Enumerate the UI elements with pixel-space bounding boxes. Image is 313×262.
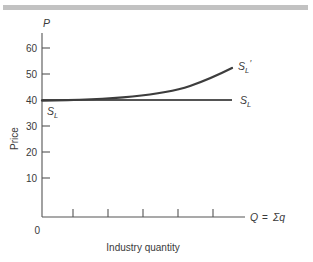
x-axis-symbol-q: Q [250,211,258,223]
curve-label-sl-prime: S L ′ [238,58,252,75]
y-tick-label-10: 10 [26,173,38,184]
x-axis-symbol-sum-q: Σq [272,211,285,223]
curve-label-sl-right-base: S [240,94,247,106]
origin-label-zero: 0 [34,225,40,236]
curve-label-sl-right-sub: L [247,100,251,109]
y-tick-label-30: 30 [26,121,38,132]
y-tick-label-60: 60 [26,43,38,54]
y-tick-label-20: 20 [26,147,38,158]
curve-label-sl-left-sub: L [54,111,58,120]
curve-label-sl-left: S L [47,105,58,120]
x-axis-symbol-equals: = [262,212,268,223]
y-axis-symbol-p: P [43,17,50,29]
y-axis-title: Price [9,127,20,150]
curve-label-sl-right: S L [240,94,251,109]
curve-label-sl-left-base: S [47,105,54,117]
curve-label-sl-prime-base: S [238,60,245,72]
y-tick-label-50: 50 [26,69,38,80]
curve-label-sl-prime-mark: ′ [250,58,252,68]
supply-curve-rising [42,68,232,101]
y-tick-label-40: 40 [26,95,38,106]
supply-curve-chart: 60 50 40 30 20 10 0 P Q = Σq S L S L [0,0,313,262]
figure-container: 60 50 40 30 20 10 0 P Q = Σq S L S L [0,0,313,262]
chart-caption: Industry quantity [106,242,179,253]
curve-label-sl-prime-sub: L [245,66,249,75]
